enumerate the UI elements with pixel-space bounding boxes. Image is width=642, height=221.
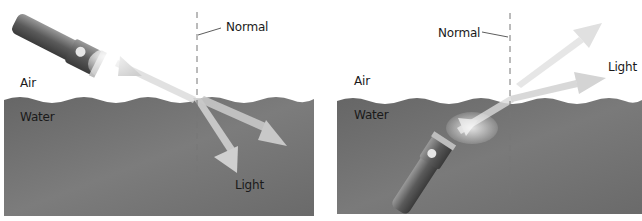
label-normal: Normal <box>438 26 480 40</box>
refracted-arrowhead <box>574 72 606 94</box>
second-beam <box>516 37 584 88</box>
normal-leader <box>482 32 508 37</box>
panel-flashlight-in-air: Normal Air Water Light <box>0 0 320 221</box>
normal-leader <box>198 28 221 35</box>
label-air: Air <box>354 74 370 88</box>
label-light: Light <box>608 60 637 74</box>
panel-flashlight-in-water: Normal Air Water Light <box>320 0 642 221</box>
label-normal: Normal <box>226 20 268 34</box>
label-air: Air <box>20 76 36 90</box>
label-light: Light <box>235 178 264 192</box>
label-water: Water <box>20 110 54 124</box>
label-water: Water <box>354 108 388 122</box>
